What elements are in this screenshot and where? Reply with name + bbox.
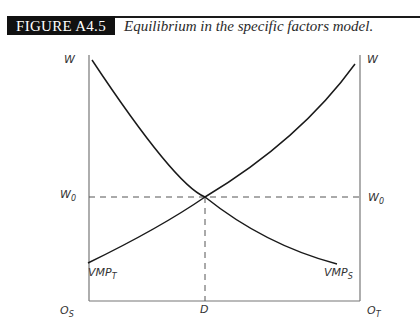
d-label: D — [200, 303, 208, 316]
origin-t-label: OT — [367, 304, 381, 319]
vmp-t-curve — [88, 64, 355, 263]
vmp-t-label: VMPT — [88, 266, 117, 281]
vmp-s-label: VMPS — [324, 266, 353, 281]
right-w-axis-label: W — [367, 53, 378, 66]
specific-factors-chart — [0, 0, 420, 319]
left-w-axis-label: W — [64, 53, 75, 66]
left-w0-label: W0 — [60, 188, 76, 203]
right-w0-label: W0 — [368, 191, 384, 206]
vmp-s-curve — [92, 60, 337, 264]
origin-s-label: OS — [60, 304, 74, 319]
